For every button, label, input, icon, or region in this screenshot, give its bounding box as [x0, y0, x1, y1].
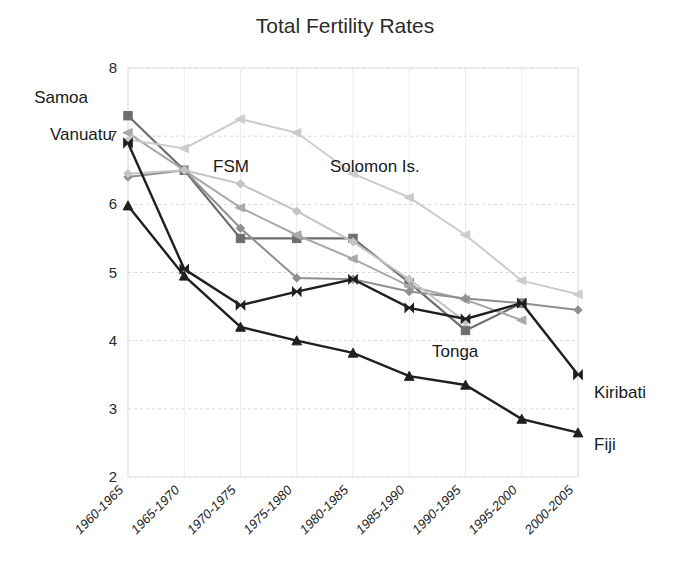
y-axis-tick-label: 2	[109, 468, 117, 485]
data-point-marker-square	[461, 326, 469, 334]
chart-title: Total Fertility Rates	[256, 14, 435, 37]
y-axis-tick-label: 4	[109, 332, 117, 349]
y-axis-tick-label: 6	[109, 195, 117, 212]
series-label-tonga: Tonga	[432, 342, 479, 361]
fertility-rates-chart: Total Fertility Rates 2345678 1960-19651…	[0, 0, 693, 575]
series-label-kiribati: Kiribati	[594, 383, 646, 402]
series-label-fsm: FSM	[213, 157, 249, 176]
data-point-marker-square	[236, 234, 244, 242]
y-axis-tick-label: 8	[109, 59, 117, 76]
y-axis-tick-label: 3	[109, 400, 117, 417]
series-label-samoa: Samoa	[34, 88, 88, 107]
data-point-marker-square	[124, 112, 132, 120]
series-label-solomon-is: Solomon Is.	[330, 157, 420, 176]
y-axis-tick-label: 5	[109, 264, 117, 281]
series-label-fiji: Fiji	[594, 435, 616, 454]
series-label-vanuatu: Vanuatu	[50, 125, 112, 144]
